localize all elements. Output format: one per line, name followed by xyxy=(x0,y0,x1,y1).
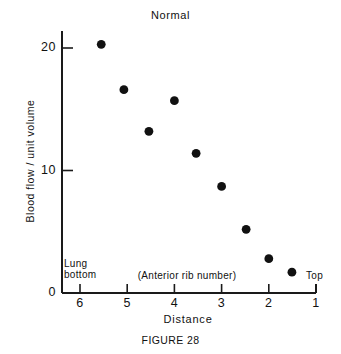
data-point xyxy=(192,149,201,158)
data-point xyxy=(288,268,297,277)
y-axis-label: Blood flow / unit volume xyxy=(24,61,36,261)
data-point xyxy=(264,254,273,263)
axis-lines xyxy=(62,31,316,293)
x-axis-ticks xyxy=(80,284,316,293)
x-axis-tick-label: 2 xyxy=(258,296,280,310)
annotation-rib-number: (Anterior rib number) xyxy=(112,270,262,281)
x-axis-tick-label: 1 xyxy=(305,296,327,310)
x-axis-label: Distance xyxy=(60,313,316,325)
data-point xyxy=(145,127,154,136)
x-axis-tick-label: 5 xyxy=(116,296,138,310)
x-axis-tick-label: 6 xyxy=(69,296,91,310)
figure-caption: FIGURE 28 xyxy=(0,334,341,346)
annotation-lung-bottom-line1: Lung xyxy=(64,258,124,269)
data-point xyxy=(97,40,106,49)
x-axis-tick-label: 4 xyxy=(163,296,185,310)
figure-28: Normal 01020 654321 Blood flow / unit vo… xyxy=(0,0,341,354)
data-point xyxy=(119,85,128,94)
x-axis-tick-label: 3 xyxy=(211,296,233,310)
y-axis-ticks xyxy=(62,48,73,171)
data-point xyxy=(170,96,179,105)
y-axis-tick-label: 0 xyxy=(22,285,56,299)
annotation-top: Top xyxy=(306,270,340,281)
data-point xyxy=(217,182,226,191)
y-axis-tick-label: 20 xyxy=(22,40,56,54)
data-point-markers xyxy=(97,40,296,277)
data-point xyxy=(242,225,251,234)
